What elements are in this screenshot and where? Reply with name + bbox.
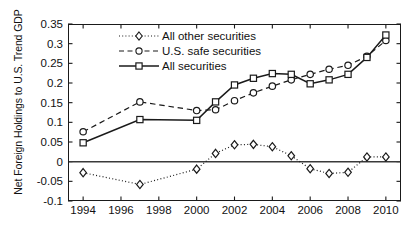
legend-sample-dashed-circle xyxy=(118,44,160,58)
legend-item-all-other-securities: All other securities xyxy=(118,28,261,43)
chart-figure: Net Foreign Holdings to U.S. Trend GDP 0… xyxy=(0,0,419,234)
legend-label: All other securities xyxy=(162,29,256,43)
legend-sample-dotted-diamond xyxy=(118,29,160,43)
legend-label: U.S. safe securities xyxy=(162,44,261,58)
legend-item-all-securities: All securities xyxy=(118,58,261,73)
chart-legend: All other securities U.S. safe securitie… xyxy=(118,28,261,73)
legend-sample-solid-square xyxy=(118,59,160,73)
legend-label: All securities xyxy=(162,59,227,73)
x-tick-label: 2010 xyxy=(361,204,411,216)
legend-item-us-safe-securities: U.S. safe securities xyxy=(118,43,261,58)
